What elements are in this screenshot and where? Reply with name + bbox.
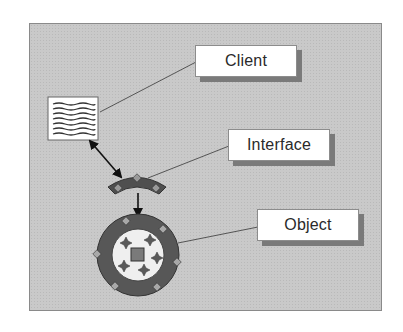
client-label-box: Client xyxy=(195,45,297,77)
interface-label: Interface xyxy=(247,136,311,154)
client-leader-line xyxy=(100,62,196,112)
object-core-square xyxy=(131,248,144,261)
object-label-box: Object xyxy=(257,209,359,241)
interface-arc-icon xyxy=(108,174,166,194)
interface-leader-line xyxy=(148,146,229,178)
object-leader-line xyxy=(178,227,258,243)
document-icon xyxy=(48,97,98,140)
client-interface-arrow xyxy=(90,141,121,177)
object-ring-icon xyxy=(93,214,181,296)
client-label: Client xyxy=(225,52,267,70)
interface-label-box: Interface xyxy=(228,129,330,161)
object-label: Object xyxy=(284,216,331,234)
